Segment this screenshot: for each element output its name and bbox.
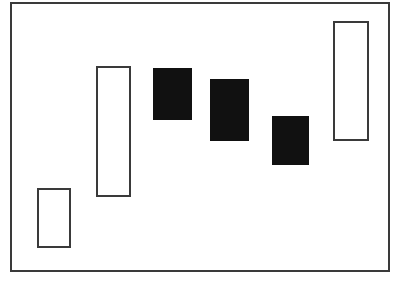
chart-bar-4: [210, 79, 249, 141]
chart-bar-6: [333, 21, 369, 141]
chart-bar-5: [272, 116, 309, 165]
figure-canvas: [0, 0, 398, 283]
chart-bar-3: [153, 68, 192, 120]
chart-bar-1: [37, 188, 71, 248]
chart-bar-2: [96, 66, 131, 197]
